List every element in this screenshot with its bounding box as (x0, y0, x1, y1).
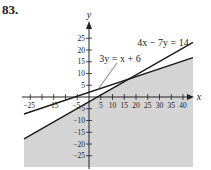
x-axis-label: x (196, 91, 202, 102)
x-tick-label: 10 (109, 101, 117, 110)
x-tick-label: 5 (99, 101, 103, 110)
y-tick-label: −20 (73, 140, 85, 149)
y-tick-label: 25 (78, 34, 86, 43)
y-tick-label: 20 (78, 46, 86, 55)
label-3y-eq-x-plus-6: 3y = x + 6 (99, 53, 140, 64)
x-tick-label: −15 (47, 101, 59, 110)
x-tick-label: 20 (132, 101, 140, 110)
x-tick-label: 30 (156, 101, 164, 110)
x-tick-label: −25 (23, 101, 35, 110)
shaded-region (24, 58, 193, 167)
y-tick-label: 5 (81, 81, 85, 90)
shaded-area (24, 58, 193, 167)
x-tick-label: 15 (121, 101, 129, 110)
x-tick-label: 25 (144, 101, 152, 110)
y-axis-label: y (86, 9, 92, 20)
inequality-graph: −25−15−5510152025303540252015105−5−10−15… (0, 0, 211, 170)
y-tick-label: −25 (73, 151, 85, 160)
y-tick-label: −15 (73, 128, 85, 137)
label-4x-minus-7y-eq-14: 4x − 7y = 14 (137, 37, 188, 48)
y-tick-label: 10 (78, 69, 86, 78)
x-tick-label: 40 (179, 101, 187, 110)
x-tick-label: 35 (168, 101, 176, 110)
y-tick-label: −10 (73, 116, 85, 125)
y-axis-arrow-icon (86, 21, 92, 29)
y-tick-label: −5 (77, 104, 85, 113)
y-tick-label: 15 (78, 57, 86, 66)
